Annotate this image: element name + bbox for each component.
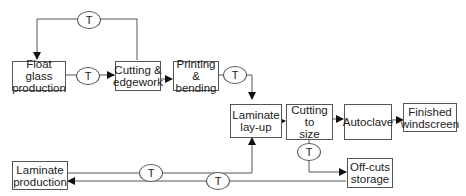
flow-connectors [0,0,466,196]
node-laminate-production: Laminate production [12,161,68,190]
node-offcuts-storage: Off-cuts storage [347,158,393,188]
node-laminate-layup: Laminate lay-up [230,104,282,138]
node-autoclave: Autoclave [344,104,392,140]
transport-node-laminate-to-layup: T [139,164,163,182]
transport-node-top-loop: T [77,11,101,29]
transport-node-cutting-to-offcuts: T [297,143,321,161]
transport-node-float-to-cutting: T [76,67,100,85]
node-finished-windscreen: Finished windscreen [403,103,457,132]
node-cutting-to-size: Cutting to size [286,104,333,140]
node-printing-bending: Printing & bending [173,61,219,91]
node-cutting-edgework: Cutting & edgework [115,61,161,91]
transport-node-printing-to-layup: T [223,66,247,84]
node-float-glass-production: Float glass production [12,61,66,91]
transport-node-offcuts-to-laminate: T [206,172,230,190]
